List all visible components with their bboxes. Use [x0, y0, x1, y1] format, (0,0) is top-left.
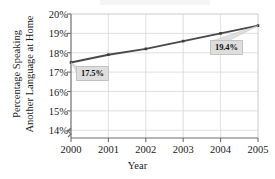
x-tick-label: 2002 [126, 144, 166, 155]
data-callout-label: 17.5% [76, 66, 109, 81]
x-tick-label: 2001 [88, 144, 128, 155]
x-tick-label: 2004 [201, 144, 241, 155]
x-axis-title: Year [0, 160, 275, 171]
x-tick-label: 2000 [51, 144, 91, 155]
line-chart-figure: Percentage Speaking Another Language at … [0, 0, 275, 179]
data-callout-label: 19.4% [210, 40, 243, 55]
x-axis-tick-labels: 200020012002200320042005Year [0, 0, 275, 179]
x-tick-label: 2005 [238, 144, 275, 155]
x-tick-label: 2003 [163, 144, 203, 155]
